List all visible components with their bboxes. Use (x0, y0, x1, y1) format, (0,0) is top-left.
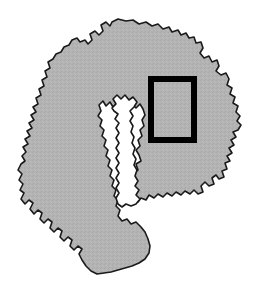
map-canvas (0, 0, 262, 299)
map-figure (0, 0, 262, 299)
